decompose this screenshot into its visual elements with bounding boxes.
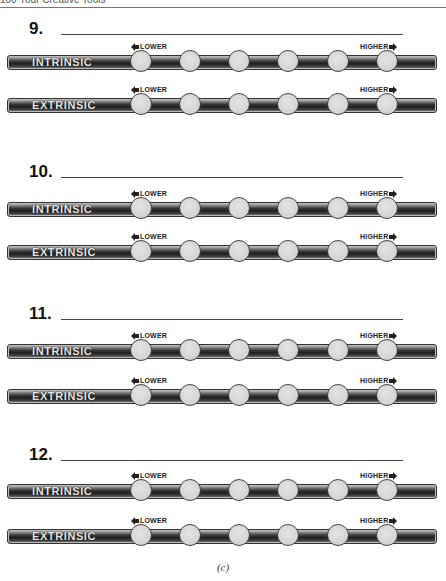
intrinsic-scale: LOWER HIGHER INTRINSIC <box>0 43 446 83</box>
rating-circle-1[interactable] <box>130 240 152 262</box>
rating-circle-6[interactable] <box>376 524 398 546</box>
rating-circle-4[interactable] <box>277 339 299 361</box>
right-arrow-icon <box>393 190 397 198</box>
item-number: 12. <box>29 446 53 463</box>
higher-label: HIGHER <box>360 86 397 94</box>
left-arrow-shaft <box>135 379 139 383</box>
higher-label: HIGHER <box>360 517 397 525</box>
rating-circle-4[interactable] <box>277 384 299 406</box>
rating-circle-3[interactable] <box>228 524 250 546</box>
higher-label: HIGHER <box>360 43 397 51</box>
rating-circle-6[interactable] <box>376 339 398 361</box>
rating-circle-2[interactable] <box>179 93 201 115</box>
right-arrow-icon <box>393 472 397 480</box>
rating-circle-5[interactable] <box>327 197 349 219</box>
running-head: 100 Your Creative Tools <box>0 0 105 5</box>
answer-line[interactable] <box>61 319 403 320</box>
left-arrow-shaft <box>135 45 139 49</box>
rating-circle-4[interactable] <box>277 197 299 219</box>
rating-circle-1[interactable] <box>130 50 152 72</box>
rating-circle-6[interactable] <box>376 479 398 501</box>
figure-caption: (c) <box>0 561 446 573</box>
rating-circle-1[interactable] <box>130 339 152 361</box>
rating-circle-3[interactable] <box>228 50 250 72</box>
rating-circle-4[interactable] <box>277 93 299 115</box>
rating-circle-1[interactable] <box>130 384 152 406</box>
scale-label: EXTRINSIC <box>32 245 96 260</box>
rating-circle-3[interactable] <box>228 339 250 361</box>
header-rule <box>0 7 446 8</box>
rating-circle-2[interactable] <box>179 339 201 361</box>
rating-circle-6[interactable] <box>376 384 398 406</box>
rating-circle-4[interactable] <box>277 50 299 72</box>
left-arrow-shaft <box>135 519 139 523</box>
left-arrow-shaft <box>135 192 139 196</box>
item-number: 11. <box>29 305 52 322</box>
left-arrow-shaft <box>135 474 139 478</box>
rating-circle-2[interactable] <box>179 50 201 72</box>
rating-circle-3[interactable] <box>228 384 250 406</box>
rating-circle-1[interactable] <box>130 93 152 115</box>
rating-item: 11. LOWER HIGHER INTRINSIC LOWER HIGHER … <box>0 305 446 435</box>
left-arrow-shaft <box>135 88 139 92</box>
rating-circle-3[interactable] <box>228 197 250 219</box>
extrinsic-scale: LOWER HIGHER EXTRINSIC <box>0 233 446 273</box>
scale-label: INTRINSIC <box>32 484 92 499</box>
right-arrow-icon <box>393 43 397 51</box>
rating-circle-3[interactable] <box>228 93 250 115</box>
rating-circle-4[interactable] <box>277 524 299 546</box>
intrinsic-scale: LOWER HIGHER INTRINSIC <box>0 190 446 230</box>
rating-circle-1[interactable] <box>130 524 152 546</box>
rating-circle-1[interactable] <box>130 197 152 219</box>
right-arrow-icon <box>393 233 397 241</box>
answer-line[interactable] <box>61 460 403 461</box>
higher-label: HIGHER <box>360 233 397 241</box>
rating-circle-2[interactable] <box>179 240 201 262</box>
scale-label: EXTRINSIC <box>32 98 96 113</box>
right-arrow-icon <box>393 86 397 94</box>
left-arrow-shaft <box>135 334 139 338</box>
rating-circle-2[interactable] <box>179 524 201 546</box>
rating-circle-4[interactable] <box>277 479 299 501</box>
right-arrow-icon <box>393 332 397 340</box>
answer-line[interactable] <box>61 34 403 35</box>
rating-circle-5[interactable] <box>327 240 349 262</box>
left-arrow-shaft <box>135 235 139 239</box>
rating-circle-3[interactable] <box>228 240 250 262</box>
rating-circle-6[interactable] <box>376 93 398 115</box>
higher-label: HIGHER <box>360 472 397 480</box>
intrinsic-scale: LOWER HIGHER INTRINSIC <box>0 332 446 372</box>
rating-circle-6[interactable] <box>376 240 398 262</box>
extrinsic-scale: LOWER HIGHER EXTRINSIC <box>0 86 446 126</box>
higher-label: HIGHER <box>360 332 397 340</box>
rating-item: 12. LOWER HIGHER INTRINSIC LOWER HIGHER … <box>0 446 446 576</box>
answer-line[interactable] <box>61 177 403 178</box>
rating-circle-5[interactable] <box>327 479 349 501</box>
rating-circle-2[interactable] <box>179 384 201 406</box>
intrinsic-scale: LOWER HIGHER INTRINSIC <box>0 472 446 512</box>
rating-circle-5[interactable] <box>327 524 349 546</box>
scale-label: INTRINSIC <box>32 55 92 70</box>
rating-circle-5[interactable] <box>327 339 349 361</box>
item-number: 10. <box>29 163 53 180</box>
extrinsic-scale: LOWER HIGHER EXTRINSIC <box>0 377 446 417</box>
extrinsic-scale: LOWER HIGHER EXTRINSIC <box>0 517 446 557</box>
rating-circle-1[interactable] <box>130 479 152 501</box>
higher-label: HIGHER <box>360 190 397 198</box>
rating-circle-6[interactable] <box>376 50 398 72</box>
rating-circle-5[interactable] <box>327 93 349 115</box>
higher-label: HIGHER <box>360 377 397 385</box>
rating-circle-3[interactable] <box>228 479 250 501</box>
rating-circle-4[interactable] <box>277 240 299 262</box>
rating-circle-5[interactable] <box>327 384 349 406</box>
rating-item: 10. LOWER HIGHER INTRINSIC LOWER HIGHER … <box>0 163 446 293</box>
right-arrow-icon <box>393 377 397 385</box>
rating-circle-5[interactable] <box>327 50 349 72</box>
rating-circle-2[interactable] <box>179 197 201 219</box>
scale-label: EXTRINSIC <box>32 529 96 544</box>
right-arrow-icon <box>393 517 397 525</box>
rating-circle-2[interactable] <box>179 479 201 501</box>
rating-circle-6[interactable] <box>376 197 398 219</box>
item-number: 9. <box>29 20 43 37</box>
scale-label: INTRINSIC <box>32 344 92 359</box>
